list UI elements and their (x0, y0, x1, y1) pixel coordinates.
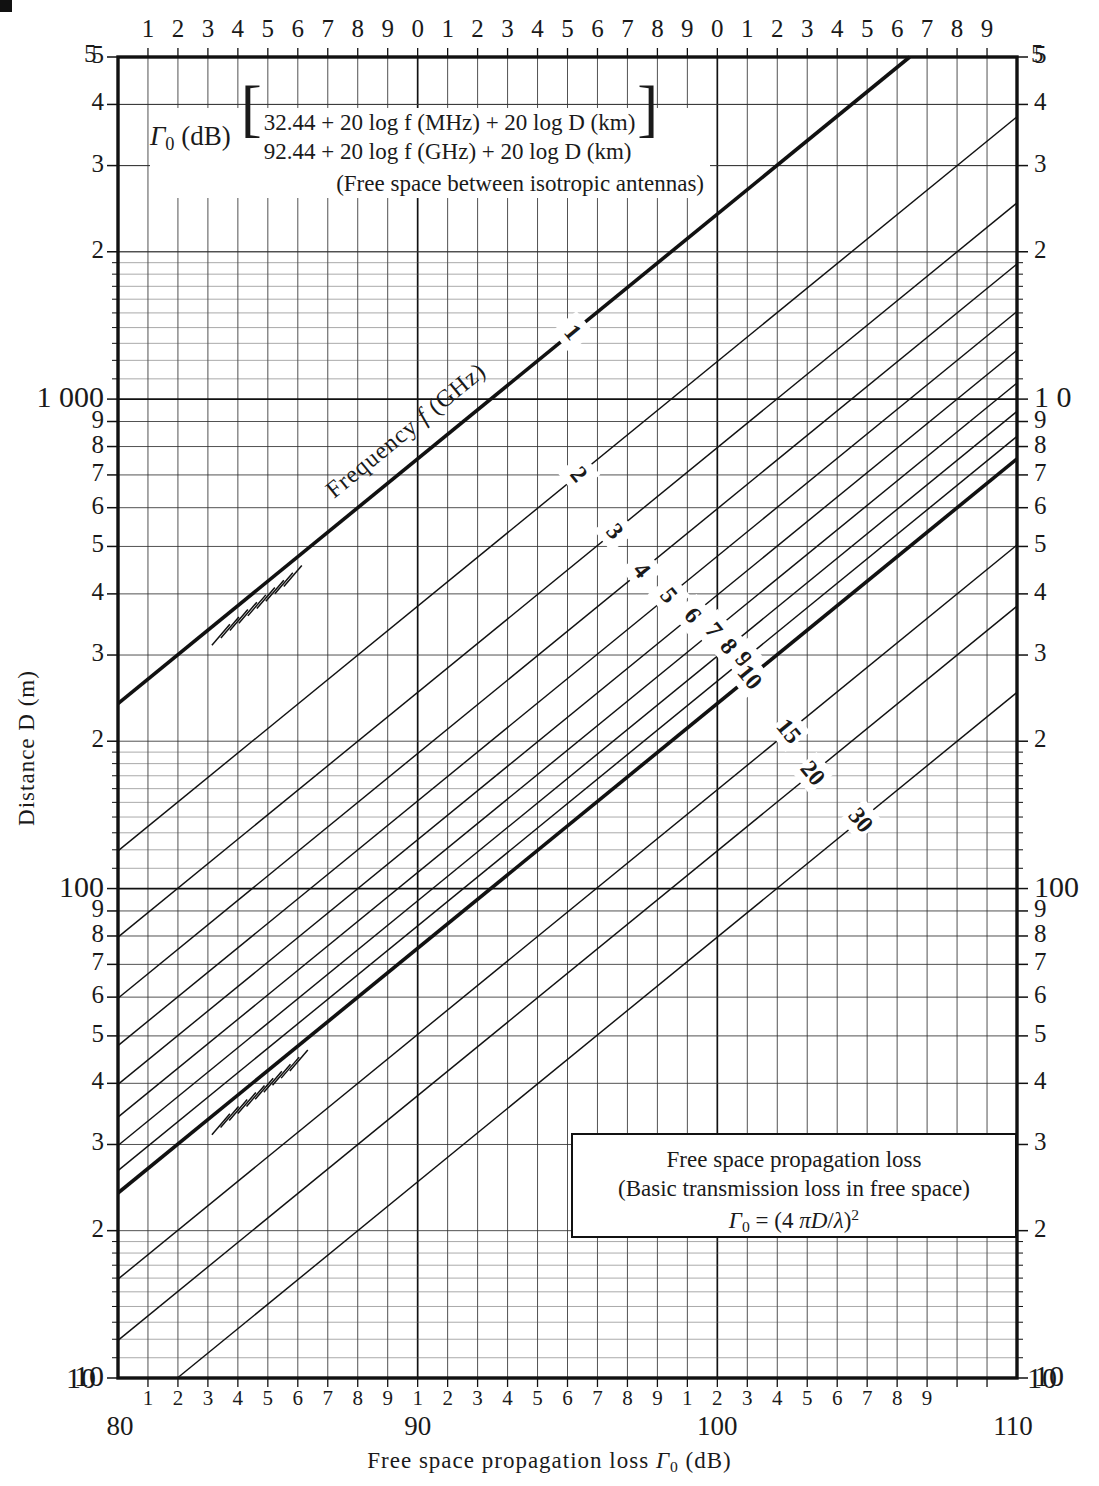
formula-note: (Free space between isotropic antennas) (150, 169, 710, 198)
legend-box: Free space propagation loss (Basic trans… (571, 1133, 1017, 1238)
top-tick-label: 4 (529, 15, 547, 43)
top-tick-label: 9 (678, 15, 696, 43)
bottom-major-label: 100 (689, 1411, 745, 1442)
legend-line-2: (Basic transmission loss in free space) (573, 1174, 1015, 1203)
top-tick-label: 4 (828, 15, 846, 43)
bottom-tick-label: 6 (289, 1386, 307, 1411)
bottom-tick-label: 8 (618, 1386, 636, 1411)
top-tick-label: 7 (319, 15, 337, 43)
bracket-left: [ (241, 108, 262, 167)
top-tick-label: 1 (439, 15, 457, 43)
bottom-tick-label: 7 (319, 1386, 337, 1411)
right-tick-label: 3 (1034, 639, 1099, 667)
formula-lhs: Γ0 (dB) (150, 119, 241, 157)
bottom-tick-label: 3 (469, 1386, 487, 1411)
top-tick-label: 3 (798, 15, 816, 43)
chart-root: 12345678910152030Frequency f (GHz)123456… (0, 0, 1099, 1486)
right-tick-label: 8 (1034, 431, 1099, 459)
bottom-tick-label: 9 (379, 1386, 397, 1411)
right-tick-label: 7 (1034, 459, 1099, 487)
top-tick-label: 2 (469, 15, 487, 43)
bottom-tick-label: 6 (828, 1386, 846, 1411)
top-tick-label: 9 (978, 15, 996, 43)
left-tick-label: 5 (0, 530, 104, 558)
top-tick-label: 2 (169, 15, 187, 43)
right-tick-label: 8 (1034, 920, 1099, 948)
top-tick-label: 8 (349, 15, 367, 43)
left-tick-label: 10 (0, 1359, 104, 1393)
legend-line-3: Γ0 = (4 πD/λ)2 (573, 1205, 1015, 1237)
left-tick-label: 3 (0, 150, 104, 178)
top-tick-label: 5 (559, 15, 577, 43)
bottom-tick-label: 7 (858, 1386, 876, 1411)
bottom-tick-label: 7 (588, 1386, 606, 1411)
right-tick-label: 5 (1034, 1020, 1099, 1048)
top-tick-label: 7 (618, 15, 636, 43)
left-tick-label: 2 (0, 236, 104, 264)
left-tick-label: 7 (0, 948, 104, 976)
left-tick-label: 2 (0, 1215, 104, 1243)
bottom-tick-label: 5 (259, 1386, 277, 1411)
y-axis-title: Distance D (m) (14, 653, 40, 843)
bottom-tick-label: 5 (798, 1386, 816, 1411)
right-tick-label: 3 (1034, 150, 1099, 178)
right-tick-label: 9 (1034, 406, 1099, 434)
right-tick-label: 3 (1034, 1128, 1099, 1156)
left-tick-label: 8 (0, 920, 104, 948)
top-tick-label: 5 (259, 15, 277, 43)
right-tick-label: 5 (1034, 530, 1099, 558)
left-tick-label: 4 (0, 88, 104, 116)
left-tick-label: 4 (0, 1067, 104, 1095)
top-tick-label: 3 (499, 15, 517, 43)
left-tick-label: 4 (0, 578, 104, 606)
right-tick-label: 2 (1034, 725, 1099, 753)
bottom-tick-label: 2 (439, 1386, 457, 1411)
left-tick-label: 9 (0, 406, 104, 434)
left-tick-label: 6 (0, 981, 104, 1009)
right-tick-label: 9 (1034, 895, 1099, 923)
right-tick-label: 6 (1034, 492, 1099, 520)
bottom-tick-label: 1 (678, 1386, 696, 1411)
right-tick-label: 2 (1034, 1215, 1099, 1243)
left-tick-label: 8 (0, 431, 104, 459)
formula-box: Γ0 (dB) [ 32.44 + 20 log f (MHz) + 20 lo… (150, 108, 710, 198)
bottom-tick-label: 6 (559, 1386, 577, 1411)
bottom-tick-label: 4 (768, 1386, 786, 1411)
bottom-tick-label: 4 (499, 1386, 517, 1411)
bottom-tick-label: 2 (169, 1386, 187, 1411)
right-tick-label: 7 (1034, 948, 1099, 976)
top-tick-label: 2 (768, 15, 786, 43)
formula-line-2: 92.44 + 20 log f (GHz) + 20 log D (km) (264, 137, 636, 166)
bottom-tick-label: 9 (918, 1386, 936, 1411)
bottom-tick-label: 5 (529, 1386, 547, 1411)
nomogram-plot (0, 0, 1099, 1486)
bottom-tick-label: 1 (409, 1386, 427, 1411)
top-tick-label: 1 (738, 15, 756, 43)
bottom-tick-label: 3 (199, 1386, 217, 1411)
bottom-major-label: 80 (92, 1411, 148, 1442)
bottom-major-label: 90 (390, 1411, 446, 1442)
right-tick-label: 4 (1034, 88, 1099, 116)
left-tick-label: 5 (0, 41, 104, 69)
bottom-tick-label: 4 (229, 1386, 247, 1411)
bottom-tick-label: 3 (738, 1386, 756, 1411)
left-tick-label: 6 (0, 492, 104, 520)
right-tick-label: 5 (1034, 41, 1099, 69)
top-tick-label: 5 (858, 15, 876, 43)
top-tick-label: 9 (379, 15, 397, 43)
bottom-tick-label: 1 (139, 1386, 157, 1411)
legend-line-1: Free space propagation loss (573, 1145, 1015, 1174)
top-tick-label: 6 (588, 15, 606, 43)
top-tick-label: 0 (708, 15, 726, 43)
left-tick-label: 3 (0, 1128, 104, 1156)
bottom-tick-label: 2 (708, 1386, 726, 1411)
top-tick-label: 7 (918, 15, 936, 43)
bottom-tick-label: 9 (648, 1386, 666, 1411)
top-tick-label: 8 (648, 15, 666, 43)
top-tick-label: 1 (139, 15, 157, 43)
right-tick-label: 2 (1034, 236, 1099, 264)
top-tick-label: 6 (888, 15, 906, 43)
top-tick-label: 8 (948, 15, 966, 43)
bracket-right: ] (637, 108, 658, 167)
left-tick-label: 7 (0, 459, 104, 487)
